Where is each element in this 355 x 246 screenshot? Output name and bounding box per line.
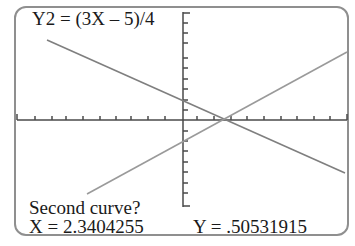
- curve-y2-increasing: [87, 52, 347, 194]
- y-coordinate-readout: Y = .50531915: [193, 217, 307, 237]
- second-curve-prompt: Second curve?: [29, 198, 140, 218]
- x-coordinate-readout: X = 2.3404255: [29, 217, 144, 237]
- y-axis: [183, 12, 190, 207]
- equation-label: Y2 = (3X – 5)/4: [32, 9, 155, 29]
- x-axis: [17, 114, 347, 120]
- curve-y1-decreasing: [47, 40, 345, 173]
